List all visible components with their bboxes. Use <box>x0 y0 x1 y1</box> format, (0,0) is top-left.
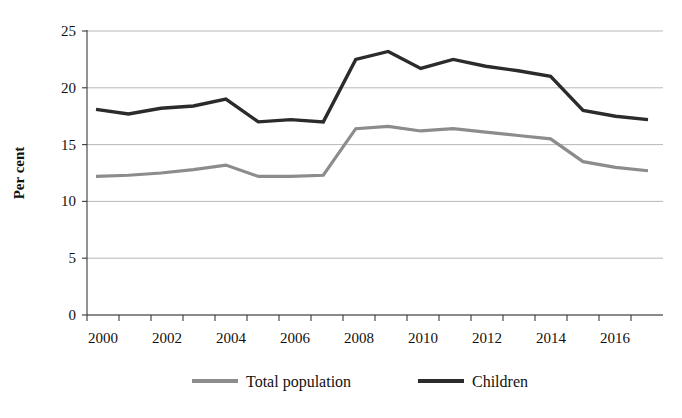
x-axis-tick-label: 2008 <box>344 330 374 346</box>
x-axis-tick-label: 2002 <box>152 330 182 346</box>
legend-label-total-population: Total population <box>246 373 351 391</box>
y-axis-tick-label: 0 <box>69 307 77 323</box>
y-axis-title: Per cent <box>11 147 27 200</box>
y-axis-tick-label: 10 <box>61 193 76 209</box>
x-axis-tick-label: 2012 <box>472 330 502 346</box>
y-axis-tick-label: 15 <box>61 137 76 153</box>
x-axis-tick-label: 2006 <box>280 330 311 346</box>
line-chart: 0510152025200020022004200620082010201220… <box>0 0 682 418</box>
y-axis-tick-label: 20 <box>61 80 76 96</box>
x-axis-tick-label: 2016 <box>600 330 631 346</box>
x-axis-tick-label: 2010 <box>408 330 438 346</box>
x-axis-tick-label: 2004 <box>216 330 247 346</box>
y-axis-tick-label: 25 <box>61 23 76 39</box>
y-axis-tick-label: 5 <box>69 250 77 266</box>
chart-figure: 0510152025200020022004200620082010201220… <box>0 0 682 418</box>
x-axis-tick-label: 2014 <box>536 330 567 346</box>
legend-label-children: Children <box>472 373 528 390</box>
x-axis-tick-label: 2000 <box>88 330 118 346</box>
series-line-children <box>96 51 648 121</box>
series-line-total-population <box>96 126 648 176</box>
